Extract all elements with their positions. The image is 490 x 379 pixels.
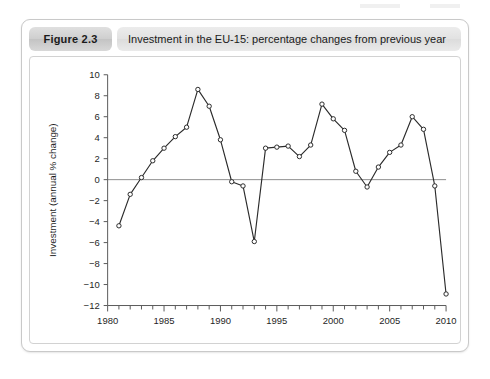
data-series-markers — [117, 87, 449, 296]
data-point — [196, 87, 200, 91]
plot-card: 1086420−2−4−6−8−10−12 198019851990199520… — [29, 56, 461, 344]
data-point — [399, 143, 403, 147]
data-point — [433, 184, 437, 188]
svg-text:−10: −10 — [84, 279, 100, 290]
figure-number-badge: Figure 2.3 — [29, 27, 112, 51]
figure-caption-bar: Figure 2.3 Investment in the EU-15: perc… — [29, 27, 461, 51]
svg-text:4: 4 — [94, 132, 99, 143]
data-point — [218, 138, 222, 142]
svg-text:1985: 1985 — [154, 315, 175, 326]
data-point — [354, 169, 358, 173]
svg-text:2010: 2010 — [436, 315, 457, 326]
figure-panel: Figure 2.3 Investment in the EU-15: perc… — [21, 19, 469, 352]
data-point — [376, 165, 380, 169]
svg-text:−8: −8 — [89, 258, 100, 269]
svg-text:1990: 1990 — [210, 315, 231, 326]
svg-text:Investment (annual % change): Investment (annual % change) — [47, 123, 58, 257]
data-point — [117, 224, 121, 228]
svg-text:2000: 2000 — [323, 315, 344, 326]
chart-svg: 1086420−2−4−6−8−10−12 198019851990199520… — [30, 57, 460, 343]
data-point — [263, 146, 267, 150]
data-point — [139, 175, 143, 179]
svg-text:8: 8 — [94, 90, 99, 101]
svg-text:−12: −12 — [84, 300, 100, 311]
data-point — [410, 115, 414, 119]
x-axis-tick-labels: 1980198519901995200020052010 — [97, 315, 456, 326]
svg-text:1995: 1995 — [266, 315, 287, 326]
data-point — [207, 104, 211, 108]
data-point — [252, 239, 256, 243]
y-axis-tick-labels: 1086420−2−4−6−8−10−12 — [84, 69, 100, 311]
y-axis-ticks — [104, 75, 108, 306]
svg-text:−2: −2 — [89, 195, 100, 206]
data-point — [173, 134, 177, 138]
figure-caption-text: Investment in the EU-15: percentage chan… — [117, 27, 461, 51]
svg-text:2005: 2005 — [379, 315, 400, 326]
data-series-line — [119, 89, 446, 294]
line-chart: 1086420−2−4−6−8−10−12 198019851990199520… — [30, 57, 460, 343]
data-point — [309, 143, 313, 147]
data-point — [184, 125, 188, 129]
data-point — [275, 145, 279, 149]
data-point — [230, 180, 234, 184]
data-point — [297, 154, 301, 158]
data-point — [421, 127, 425, 131]
svg-text:10: 10 — [89, 69, 100, 80]
axis-lines — [108, 75, 446, 306]
page-artifact-right — [430, 4, 460, 8]
data-point — [162, 146, 166, 150]
svg-text:−4: −4 — [89, 216, 100, 227]
data-point — [387, 150, 391, 154]
data-point — [342, 128, 346, 132]
svg-text:0: 0 — [94, 174, 99, 185]
data-point — [365, 185, 369, 189]
data-point — [128, 192, 132, 196]
svg-text:1980: 1980 — [97, 315, 118, 326]
data-point — [331, 117, 335, 121]
data-point — [241, 184, 245, 188]
svg-text:6: 6 — [94, 111, 99, 122]
page-artifact-left — [360, 4, 400, 8]
data-point — [444, 292, 448, 296]
y-axis-title: Investment (annual % change) — [47, 123, 58, 257]
data-point — [320, 102, 324, 106]
data-point — [286, 144, 290, 148]
svg-text:2: 2 — [94, 153, 99, 164]
data-point — [151, 159, 155, 163]
svg-text:−6: −6 — [89, 237, 100, 248]
x-axis-ticks — [108, 306, 446, 312]
